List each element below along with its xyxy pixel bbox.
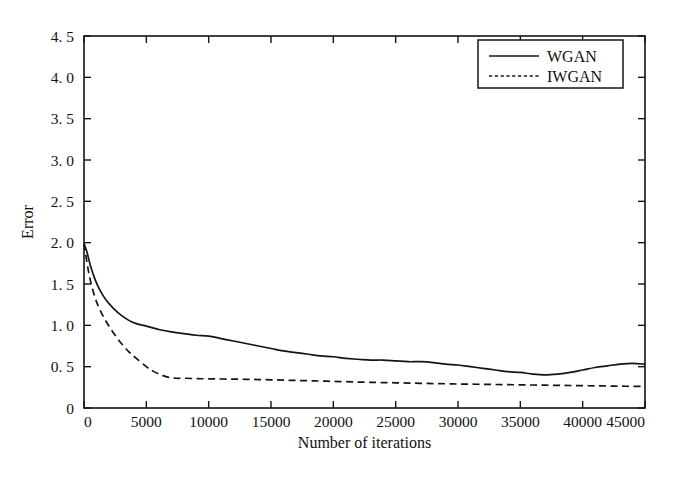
- x-tick-label: 35000: [501, 413, 540, 430]
- y-tick-label: 1. 0: [51, 317, 75, 334]
- x-tick-label: 40000: [563, 413, 602, 430]
- x-tick-label: 15000: [252, 413, 291, 430]
- x-tick-label: 25000: [376, 413, 415, 430]
- y-tick-label: 0: [66, 400, 74, 417]
- y-tick-label: 2. 5: [51, 193, 75, 210]
- y-axis-title: Error: [19, 204, 36, 238]
- x-tick-label: 5000: [131, 413, 162, 430]
- y-tick-label: 4. 5: [51, 28, 75, 45]
- y-tick-label: 4. 0: [51, 69, 75, 86]
- error-vs-iterations-line-chart: 00. 51. 01. 52. 02. 53. 03. 54. 04. 5 05…: [0, 0, 681, 484]
- figure-container: 00. 51. 01. 52. 02. 53. 03. 54. 04. 5 05…: [0, 0, 681, 484]
- legend-label-iwgan: IWGAN: [547, 68, 603, 85]
- x-tick-label: 45000: [606, 413, 645, 430]
- y-tick-label: 3. 0: [51, 152, 75, 169]
- x-tick-label: 10000: [189, 413, 228, 430]
- legend: WGAN IWGAN: [478, 40, 623, 88]
- y-tick-label: 0. 5: [51, 358, 75, 375]
- x-axis-title: Number of iterations: [298, 434, 431, 451]
- x-tick-label: 0: [84, 413, 92, 430]
- x-tick-label: 20000: [314, 413, 353, 430]
- y-tick-label: 3. 5: [51, 110, 75, 127]
- legend-label-wgan: WGAN: [547, 48, 597, 65]
- y-tick-label: 2. 0: [51, 234, 75, 251]
- x-tick-label: 30000: [439, 413, 478, 430]
- y-tick-label: 1. 5: [51, 276, 75, 293]
